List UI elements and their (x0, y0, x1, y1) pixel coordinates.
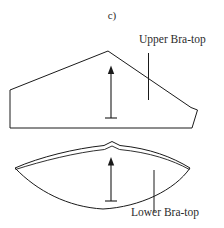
lower-panel-inner-chord (16, 146, 190, 170)
upper-grain-arrow-head (108, 66, 114, 75)
upper-panel-group (10, 51, 198, 128)
upper-panel-outline (10, 51, 198, 128)
lower-bra-top-label: Lower Bra-top (131, 207, 199, 219)
lower-panel-group (15, 142, 190, 210)
bra-top-pattern-figure: c) Upper Bra-top Lower Bra-top (0, 0, 224, 228)
lower-grain-arrow-head (108, 157, 114, 166)
lower-panel-outline (15, 142, 190, 210)
upper-bra-top-label: Upper Bra-top (139, 34, 206, 46)
figure-caption: c) (0, 10, 224, 21)
